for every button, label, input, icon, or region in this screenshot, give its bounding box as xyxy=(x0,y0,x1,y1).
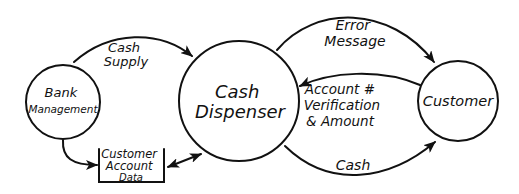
flow-cash-supply: Cash Supply xyxy=(74,37,192,69)
node-label-bank-line1: Bank xyxy=(45,85,78,100)
flow-label-error-message-line1: Error xyxy=(335,17,371,33)
node-customer: Customer xyxy=(418,61,498,141)
flow-error-message: Error Message xyxy=(277,17,434,62)
flow-label-cash-supply-line1: Cash xyxy=(108,40,140,55)
svg-text:Cash Supply: Cash Supply xyxy=(104,40,149,69)
flow-label-verification-line3: & Amount xyxy=(306,113,375,129)
flow-label-verification-line1: Account # xyxy=(304,81,375,97)
data-store-customer-account: Customer Account Data xyxy=(99,147,164,183)
node-label-dispenser-line2: Dispenser xyxy=(195,101,287,122)
svg-text:Account # Verification: Account # Verification & Amount xyxy=(304,81,385,129)
flow-label-cash: Cash xyxy=(336,157,371,173)
svg-text:Customer: Customer xyxy=(423,93,494,109)
flow-bank-to-store xyxy=(63,140,97,165)
flow-label-cash-supply-line2: Supply xyxy=(104,54,149,69)
flow-label-error-message-line2: Message xyxy=(324,33,385,49)
data-flow-diagram: Cash Supply Error Message Account # Veri… xyxy=(0,0,519,194)
node-label-dispenser-line1: Cash xyxy=(215,81,259,102)
flow-label-verification-line2: Verification xyxy=(304,97,380,113)
node-bank-management: Bank Management xyxy=(26,65,100,139)
node-cash-dispenser: Cash Dispenser xyxy=(179,41,299,161)
store-label-line2: Account xyxy=(105,159,153,173)
svg-text:Cash: Cash xyxy=(336,157,371,173)
store-label-line3: Data xyxy=(119,172,143,183)
node-label-customer: Customer xyxy=(423,93,494,109)
flow-cash: Cash xyxy=(285,142,435,175)
flow-store-dispenser xyxy=(168,154,201,167)
flow-account-verification: Account # Verification & Amount xyxy=(300,74,420,129)
node-label-bank-line2: Management xyxy=(28,103,98,115)
svg-text:Customer Account D: Customer Account Data xyxy=(101,147,161,183)
